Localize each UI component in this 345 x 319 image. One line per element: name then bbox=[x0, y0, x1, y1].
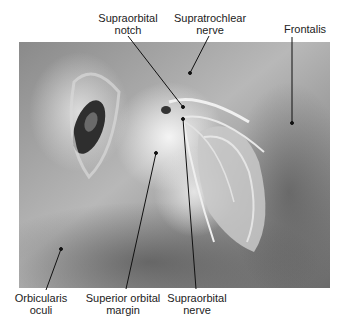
label-text: Supraorbital bbox=[97, 12, 159, 24]
label-orbicularis-oculi: Orbicularis oculi bbox=[12, 292, 70, 316]
label-text: Orbicularis bbox=[12, 292, 70, 304]
label-supratrochlear-nerve: Supratrochlear nerve bbox=[172, 12, 248, 36]
label-text: Supratrochlear bbox=[172, 12, 248, 24]
label-text: Supraorbital bbox=[166, 292, 228, 304]
label-text: nerve bbox=[166, 304, 228, 316]
label-superior-orbital-margin: Superior orbital margin bbox=[82, 292, 164, 316]
label-supraorbital-notch: Supraorbital notch bbox=[97, 12, 159, 36]
leader-lines bbox=[0, 0, 345, 319]
label-frontalis: Frontalis bbox=[270, 23, 340, 35]
leader-orbicularis-oculi bbox=[46, 249, 61, 290]
label-supraorbital-nerve: Supraorbital nerve bbox=[166, 292, 228, 316]
label-text: margin bbox=[82, 304, 164, 316]
leader-superior-orbital-margin bbox=[126, 153, 156, 289]
label-text: nerve bbox=[172, 24, 248, 36]
leader-supraorbital-notch bbox=[128, 36, 183, 107]
leader-supratrochlear-nerve bbox=[190, 36, 209, 73]
leader-supraorbital-nerve bbox=[183, 119, 196, 289]
label-text: Superior orbital bbox=[82, 292, 164, 304]
label-text: oculi bbox=[12, 304, 70, 316]
label-text: notch bbox=[97, 24, 159, 36]
label-text: Frontalis bbox=[270, 23, 340, 35]
